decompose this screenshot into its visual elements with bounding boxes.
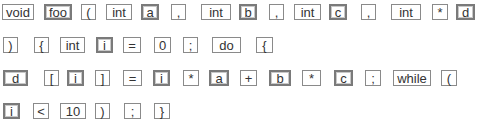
- token-box: ,: [171, 4, 186, 20]
- token-box: {: [34, 37, 49, 53]
- token-box: (: [441, 70, 457, 86]
- token-box: }: [154, 103, 170, 119]
- identifier-token: a: [209, 70, 229, 86]
- token-box: (: [81, 4, 96, 20]
- token-box: *: [183, 70, 199, 86]
- identifier-token: b: [269, 70, 291, 86]
- identifier-token: i: [3, 103, 20, 119]
- token-box: <: [33, 103, 49, 119]
- token-box: ,: [269, 4, 284, 20]
- token-box: ;: [365, 70, 381, 86]
- token-box: int: [106, 4, 132, 20]
- token-box: int: [391, 4, 421, 20]
- identifier-token: foo: [44, 4, 72, 20]
- identifier-token: a: [141, 4, 159, 20]
- token-box: =: [123, 37, 141, 53]
- token-box: ,: [361, 4, 376, 20]
- token-box: do: [212, 37, 241, 53]
- identifier-token: b: [239, 4, 257, 20]
- token-box: ;: [124, 103, 141, 119]
- identifier-token: i: [153, 70, 170, 86]
- token-box: [: [44, 70, 59, 86]
- token-box: =: [123, 70, 142, 86]
- token-box: 10: [60, 103, 86, 119]
- token-box: int: [60, 37, 85, 53]
- token-box: *: [432, 4, 448, 20]
- token-box: while: [393, 70, 431, 86]
- token-box: int: [294, 4, 321, 20]
- token-box: {: [256, 37, 273, 53]
- identifier-token: i: [67, 70, 84, 86]
- token-box: ): [3, 37, 18, 53]
- token-box: ): [95, 103, 110, 119]
- identifier-token: d: [456, 4, 475, 20]
- token-box: int: [201, 4, 231, 20]
- token-box: ]: [95, 70, 110, 86]
- token-box: +: [240, 70, 257, 86]
- token-box: ;: [183, 37, 198, 53]
- identifier-token: c: [334, 70, 353, 86]
- identifier-token: i: [96, 37, 113, 53]
- identifier-token: d: [3, 70, 28, 86]
- token-box: *: [302, 70, 321, 86]
- token-box: void: [2, 4, 34, 20]
- token-box: 0: [154, 37, 171, 53]
- identifier-token: c: [329, 4, 347, 20]
